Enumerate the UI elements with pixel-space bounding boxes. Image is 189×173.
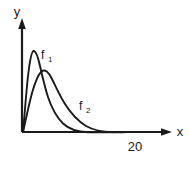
x-axis-arrowhead <box>161 128 172 136</box>
curve-label-f2-subscript: 2 <box>86 106 91 115</box>
curve-f1 <box>23 51 116 132</box>
density-curves-figure: y x 20 f 1 f 2 <box>0 0 189 173</box>
plot-canvas: y x 20 f 1 f 2 <box>0 0 189 173</box>
y-axis-label: y <box>14 4 21 19</box>
y-axis-arrowhead <box>18 18 26 29</box>
curve-label-f1-base: f <box>41 48 45 62</box>
curve-f2 <box>23 71 128 133</box>
curve-label-f1: f 1 <box>41 48 53 64</box>
curve-label-f2-base: f <box>79 99 83 113</box>
curve-label-f1-subscript: 1 <box>48 55 53 64</box>
curve-label-f2: f 2 <box>79 99 91 115</box>
x-tick-label-20: 20 <box>128 139 142 154</box>
x-axis-label: x <box>177 124 184 139</box>
